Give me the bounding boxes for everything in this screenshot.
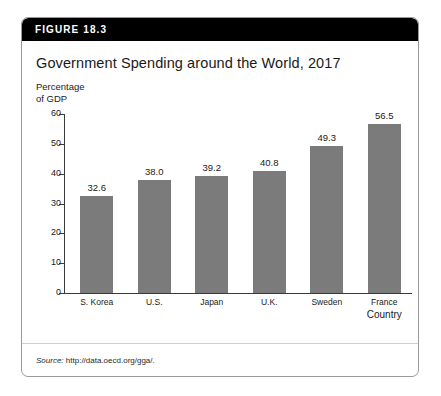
bar-value-label: 32.6: [88, 182, 107, 193]
bar: 38.0: [138, 180, 171, 293]
source-divider: [22, 343, 418, 344]
y-tick-label: 0: [56, 287, 61, 297]
figure-number-label: FIGURE 18.3: [35, 24, 107, 35]
bar: 56.5: [368, 124, 401, 293]
figure-card: FIGURE 18.3 Government Spending around t…: [21, 17, 419, 377]
source-label: Source:: [36, 356, 64, 365]
y-axis-title: Percentage of GDP: [36, 81, 85, 104]
bar: 39.2: [195, 176, 228, 293]
bar: 32.6: [80, 196, 113, 293]
y-tick-label: 30: [51, 198, 61, 208]
y-tick-label: 20: [51, 227, 61, 237]
x-tick-label: France: [356, 297, 414, 307]
y-tick-label: 60: [51, 108, 61, 118]
source-url: http://data.oecd.org/gga/.: [66, 356, 155, 365]
x-axis-title: Country: [356, 309, 414, 320]
bar-value-label: 39.2: [203, 162, 222, 173]
bar: 49.3: [310, 146, 343, 293]
bar-value-label: 38.0: [145, 166, 164, 177]
source-note: Source: http://data.oecd.org/gga/.: [36, 356, 155, 365]
y-axis-line: [64, 114, 65, 293]
bar: 40.8: [253, 171, 286, 293]
page-title: Government Spending around the World, 20…: [36, 55, 418, 71]
bar-value-label: 49.3: [318, 132, 337, 143]
x-axis-line: [64, 293, 412, 294]
figure-header: FIGURE 18.3: [22, 18, 418, 41]
y-tick-label: 50: [51, 138, 61, 148]
x-tick-label: S. Korea: [68, 297, 126, 307]
bar-chart: Percentage of GDP 0102030405060 32.638.0…: [22, 81, 418, 323]
x-tick-label: U.K.: [241, 297, 299, 307]
bar-value-label: 40.8: [260, 157, 279, 168]
bar-value-label: 56.5: [375, 110, 394, 121]
plot-area: 0102030405060 32.638.039.240.849.356.5 S…: [64, 114, 409, 293]
x-tick-label: Japan: [183, 297, 241, 307]
x-tick-label: Sweden: [298, 297, 356, 307]
x-tick-label: U.S.: [126, 297, 184, 307]
y-tick-label: 40: [51, 168, 61, 178]
y-tick-label: 10: [51, 257, 61, 267]
